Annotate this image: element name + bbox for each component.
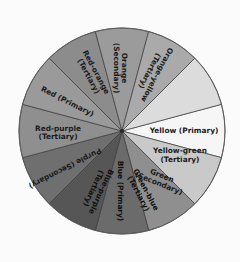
segment-label-line: (Tertiary) [160, 155, 199, 164]
segment-label-line: (Tertiary) [39, 132, 78, 141]
segment-label-red-purple-tertiary: Red-purple(Tertiary) [35, 124, 81, 141]
segment-label-line: Yellow (Primary) [149, 126, 219, 135]
segment-label-blue-primary: Blue (Primary) [116, 161, 125, 222]
color-wheel-svg: Yellow (Primary)Yellow-green(Tertiary)Gr… [0, 0, 240, 262]
segment-label-yellow-primary: Yellow (Primary) [149, 126, 219, 135]
segment-label-yellow-green-tertiary: Yellow-green(Tertiary) [152, 146, 207, 163]
segment-label-line: (Secondary) [112, 43, 121, 94]
wheel-center-hub [120, 129, 124, 133]
segment-label-line: Blue (Primary) [116, 161, 125, 222]
color-wheel-figure: Yellow (Primary)Yellow-green(Tertiary)Gr… [0, 0, 240, 262]
